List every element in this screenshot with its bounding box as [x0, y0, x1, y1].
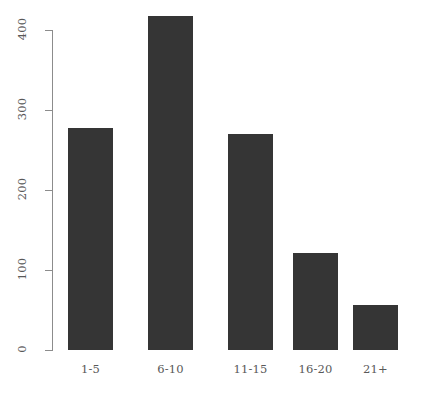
bar-1-5 [68, 128, 113, 350]
x-tick-label-1-5: 1-5 [51, 362, 131, 376]
bar-11-15 [228, 134, 273, 350]
bar-chart: 0 100 200 300 400 1-56-1011-1516-2021+ [0, 0, 437, 404]
bar-21+ [353, 305, 398, 350]
bars-layer [0, 0, 437, 404]
x-tick-label-21+: 21+ [336, 362, 416, 376]
bar-6-10 [148, 16, 193, 350]
x-tick-label-6-10: 6-10 [131, 362, 211, 376]
bar-16-20 [293, 253, 338, 350]
